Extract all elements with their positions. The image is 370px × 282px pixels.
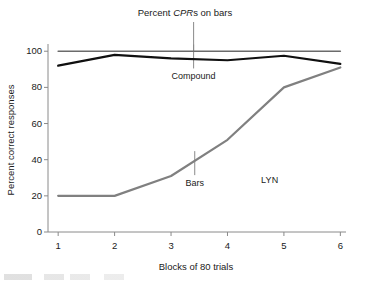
- plot-area: [0, 0, 370, 282]
- cropped-caption-strip: [4, 274, 124, 280]
- series-line: [58, 55, 340, 66]
- figure-container: Percent CPRs on bars Percent correct res…: [0, 0, 370, 282]
- data-series-layer: [58, 51, 340, 196]
- y-axis-ticks: [44, 51, 48, 232]
- axis-lines: [48, 44, 346, 232]
- annotation-leader-lines: [194, 22, 195, 175]
- series-line: [58, 68, 340, 196]
- x-axis-ticks: [58, 232, 340, 236]
